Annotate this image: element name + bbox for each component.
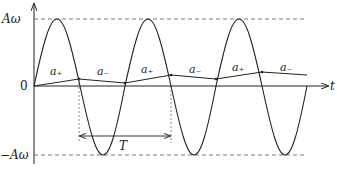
label-zero: 0 <box>20 79 28 93</box>
segment-label: a₊ <box>141 63 154 76</box>
segment-label: a₊ <box>232 61 245 74</box>
label-amplitude-bottom: −Aω <box>0 148 29 162</box>
label-period: T <box>119 139 128 153</box>
segment-label: a₋ <box>97 65 110 78</box>
velocity-diagram: Aω 0 −Aω t T a₊ a₋ a₊ a₋ a₊ a₋ <box>0 0 337 171</box>
segment-label: a₋ <box>189 63 202 76</box>
label-amplitude-top: Aω <box>1 12 21 26</box>
sine-curve <box>34 19 307 155</box>
label-t-axis: t <box>330 79 335 93</box>
segment-label: a₋ <box>280 61 293 74</box>
segment-label: a₊ <box>50 65 63 78</box>
